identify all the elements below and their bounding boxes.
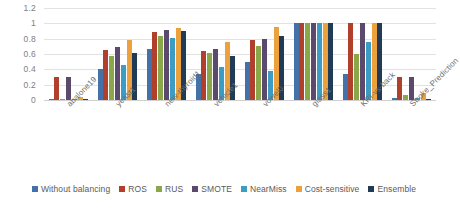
x-axis: abalone19yeast1new-thyroid1vehicle1vowel… — [44, 100, 436, 174]
legend-label: RUS — [165, 184, 183, 194]
y-tick-label: 0.2 — [24, 80, 36, 89]
y-tick-label: 0 — [31, 96, 36, 105]
legend-item[interactable]: ROS — [119, 184, 147, 194]
y-tick-label: 0.8 — [24, 34, 36, 43]
bar[interactable] — [343, 74, 348, 100]
bar[interactable] — [262, 39, 267, 100]
bar-group — [93, 8, 142, 100]
y-axis: 1.210.80.60.40.20 — [0, 8, 40, 100]
legend-swatch-icon — [368, 186, 374, 192]
bar[interactable] — [207, 53, 212, 100]
bar[interactable] — [348, 23, 353, 100]
bar[interactable] — [98, 69, 103, 100]
legend-item[interactable]: Ensemble — [368, 184, 416, 194]
legend-swatch-icon — [156, 186, 162, 192]
legend-label: NearMiss — [250, 184, 287, 194]
bar[interactable] — [305, 23, 310, 100]
bar[interactable] — [354, 54, 359, 100]
legend-label: SMOTE — [201, 184, 232, 194]
bar[interactable] — [164, 30, 169, 100]
bar[interactable] — [54, 77, 59, 100]
bar[interactable] — [147, 49, 152, 100]
bar[interactable] — [250, 40, 255, 100]
legend-swatch-icon — [192, 186, 198, 192]
bar-group — [289, 8, 338, 100]
bar[interactable] — [103, 50, 108, 100]
bar[interactable] — [152, 32, 157, 100]
y-tick-label: 0.4 — [24, 65, 36, 74]
legend: Without balancingROSRUSSMOTENearMissCost… — [0, 180, 448, 198]
legend-item[interactable]: NearMiss — [241, 184, 287, 194]
legend-label: ROS — [128, 184, 147, 194]
bar[interactable] — [256, 46, 261, 100]
bar[interactable] — [245, 62, 250, 100]
legend-label: Cost-sensitive — [305, 184, 360, 194]
bar[interactable] — [115, 47, 120, 100]
bar[interactable] — [158, 36, 163, 100]
legend-swatch-icon — [241, 186, 247, 192]
legend-item[interactable]: SMOTE — [192, 184, 232, 194]
legend-item[interactable]: Without balancing — [32, 184, 110, 194]
legend-label: Ensemble — [377, 184, 416, 194]
legend-swatch-icon — [296, 186, 302, 192]
bar[interactable] — [109, 56, 114, 100]
legend-item[interactable]: Cost-sensitive — [296, 184, 360, 194]
bar[interactable] — [299, 23, 304, 100]
bar[interactable] — [311, 23, 316, 100]
legend-swatch-icon — [32, 186, 38, 192]
bar[interactable] — [317, 23, 322, 100]
bar[interactable] — [360, 23, 365, 100]
bar[interactable] — [213, 49, 218, 100]
y-tick-label: 0.6 — [24, 50, 36, 59]
bar[interactable] — [294, 23, 299, 100]
legend-label: Without balancing — [41, 184, 110, 194]
bar[interactable] — [397, 77, 402, 100]
y-tick-label: 1.2 — [24, 4, 36, 13]
legend-swatch-icon — [119, 186, 125, 192]
y-tick-label: 1 — [31, 19, 36, 28]
legend-item[interactable]: RUS — [156, 184, 183, 194]
